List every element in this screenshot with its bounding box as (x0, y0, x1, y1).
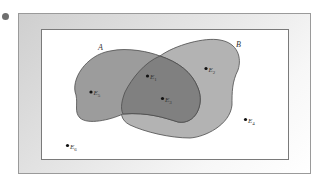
set-b-label: B (236, 40, 241, 49)
outcome-e6: E6 (66, 143, 77, 152)
venn-diagram: A B E1 E2 E3 E4 E5 E6 (0, 0, 325, 184)
svg-text:E6: E6 (69, 143, 77, 152)
svg-text:E4: E4 (247, 117, 255, 126)
outcome-e4: E4 (244, 117, 255, 126)
set-a-label: A (97, 43, 103, 52)
